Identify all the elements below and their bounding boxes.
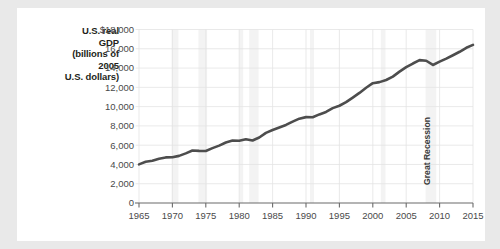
x-tick-label: 2005 xyxy=(396,210,417,221)
y-tick-label: 14,000 xyxy=(105,62,134,73)
recession-band xyxy=(239,30,243,204)
x-tick-label: 1990 xyxy=(295,210,316,221)
y-axis-tick-labels: 02,0004,0006,0008,00010,00012,00014,0001… xyxy=(100,24,139,209)
x-axis-tick-labels: 1965197019751980198519901995200020052010… xyxy=(128,210,483,221)
y-tick-label: 0 xyxy=(129,197,134,208)
x-tick-label: 1965 xyxy=(128,210,149,221)
y-tick-label: 10,000 xyxy=(105,101,134,112)
y-tick-label: 4,000 xyxy=(110,159,134,170)
x-tick-label: 1970 xyxy=(162,210,183,221)
x-tick-label: 1995 xyxy=(329,210,350,221)
y-tick-label: 12,000 xyxy=(105,82,134,93)
figure-panel: U.S. real GDP (billions of 2005 U.S. dol… xyxy=(17,8,485,241)
y-tick-label: $18,000 xyxy=(100,24,134,35)
chart-plot-area: 02,0004,0006,0008,00010,00012,00014,0001… xyxy=(17,8,485,241)
y-tick-label: 6,000 xyxy=(110,140,134,151)
great-recession-annotation: Great Recession xyxy=(422,117,432,185)
annotations-group: Great Recession xyxy=(422,117,432,185)
x-tick-label: 1985 xyxy=(262,210,283,221)
y-tick-label: 8,000 xyxy=(110,120,134,131)
x-axis xyxy=(135,203,473,208)
recession-band xyxy=(381,30,386,204)
x-tick-label: 2010 xyxy=(429,210,450,221)
x-tick-label: 2015 xyxy=(462,210,483,221)
x-tick-label: 2000 xyxy=(362,210,383,221)
y-tick-label: 16,000 xyxy=(105,43,134,54)
line-chart: 02,0004,0006,0008,00010,00012,00014,0001… xyxy=(17,8,485,241)
x-tick-label: 1975 xyxy=(195,210,216,221)
y-tick-label: 2,000 xyxy=(110,178,134,189)
recession-band xyxy=(249,30,258,204)
x-tick-label: 1980 xyxy=(229,210,250,221)
